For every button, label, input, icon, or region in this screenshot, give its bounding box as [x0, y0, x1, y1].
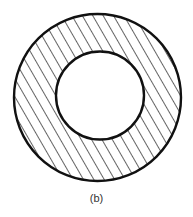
inner-circle — [56, 52, 144, 140]
figure-caption: (b) — [0, 192, 193, 204]
annulus-diagram — [0, 0, 193, 217]
